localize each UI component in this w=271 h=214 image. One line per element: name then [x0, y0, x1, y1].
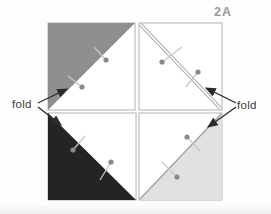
figure-svg: [0, 0, 271, 214]
pin-head: [108, 159, 113, 164]
pin-head: [159, 59, 164, 64]
pin-head: [174, 174, 179, 179]
pin-head: [195, 69, 200, 74]
pin-head: [79, 84, 84, 89]
fold-label-left: fold: [12, 98, 32, 110]
figure-label: 2A: [214, 6, 232, 18]
pin-head: [184, 134, 189, 139]
page-shadow: [0, 204, 271, 214]
pin-head: [103, 57, 108, 62]
pin-head: [70, 147, 75, 152]
fold-label-right: fold: [237, 99, 257, 111]
diagram-canvas: fold fold 2A: [0, 0, 271, 214]
